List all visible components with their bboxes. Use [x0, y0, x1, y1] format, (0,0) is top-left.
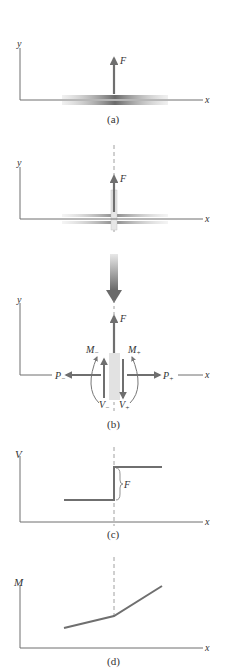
transition-down-arrow-icon	[106, 254, 122, 303]
moment-left-label: M−	[85, 344, 99, 357]
cut-element-block	[109, 353, 120, 400]
x-axis-label: x	[204, 516, 210, 527]
x-axis-label: x	[204, 213, 210, 224]
jump-brace-icon	[116, 468, 123, 500]
panel-b-bottom: y x F M− M+ P− P+ V− V+ (b)	[16, 294, 210, 431]
caption-c: (c)	[107, 528, 120, 541]
shear-right-label: V+	[119, 399, 130, 412]
caption-d: (d)	[107, 655, 120, 668]
axial-right-label: P+	[162, 370, 174, 383]
panel-c-shear-diagram: V x F (c)	[15, 447, 210, 541]
y-axis-label: y	[16, 38, 22, 49]
shear-curve	[64, 467, 162, 500]
x-axis-label: x	[204, 642, 210, 653]
axial-left-label: P−	[54, 370, 66, 383]
jump-label: F	[123, 479, 131, 490]
caption-b: (b)	[107, 418, 120, 431]
x-axis-label: x	[204, 369, 210, 380]
force-label: F	[119, 313, 127, 324]
moment-right-label: M+	[127, 344, 141, 357]
panel-a: y x F (a)	[16, 38, 210, 126]
y-axis-label: y	[16, 294, 22, 305]
force-label: F	[119, 55, 127, 66]
panel-d-moment-diagram: M x (d)	[13, 557, 210, 668]
x-axis-label: x	[204, 94, 210, 105]
shear-left-label: V−	[99, 399, 110, 412]
free-body-diagram-figure: y x F (a) y x F y x F	[0, 0, 226, 669]
panel-b-top: y x F	[16, 145, 210, 232]
moment-left-arc-icon	[91, 357, 99, 403]
y-axis-label: M	[13, 576, 24, 588]
moment-curve	[64, 586, 162, 628]
y-axis-label: V	[15, 448, 23, 460]
force-label: F	[119, 173, 127, 184]
caption-a: (a)	[107, 113, 120, 126]
moment-right-arc-icon	[130, 357, 138, 403]
y-axis-label: y	[16, 157, 22, 168]
